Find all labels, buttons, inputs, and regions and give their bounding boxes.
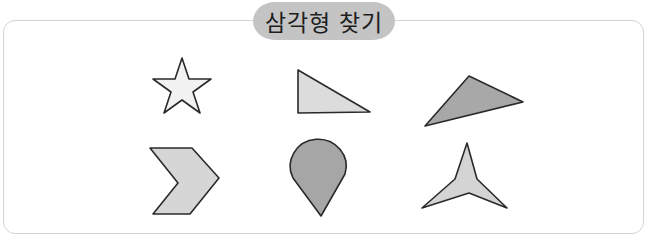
chevron-shape[interactable] bbox=[150, 148, 219, 214]
obtuse-triangle-shape[interactable] bbox=[425, 76, 523, 126]
tripod-shape[interactable] bbox=[422, 143, 507, 208]
shapes-canvas bbox=[0, 0, 648, 237]
teardrop-shape[interactable] bbox=[290, 139, 346, 216]
right-triangle-shape[interactable] bbox=[298, 70, 370, 113]
star-shape[interactable] bbox=[153, 58, 211, 113]
